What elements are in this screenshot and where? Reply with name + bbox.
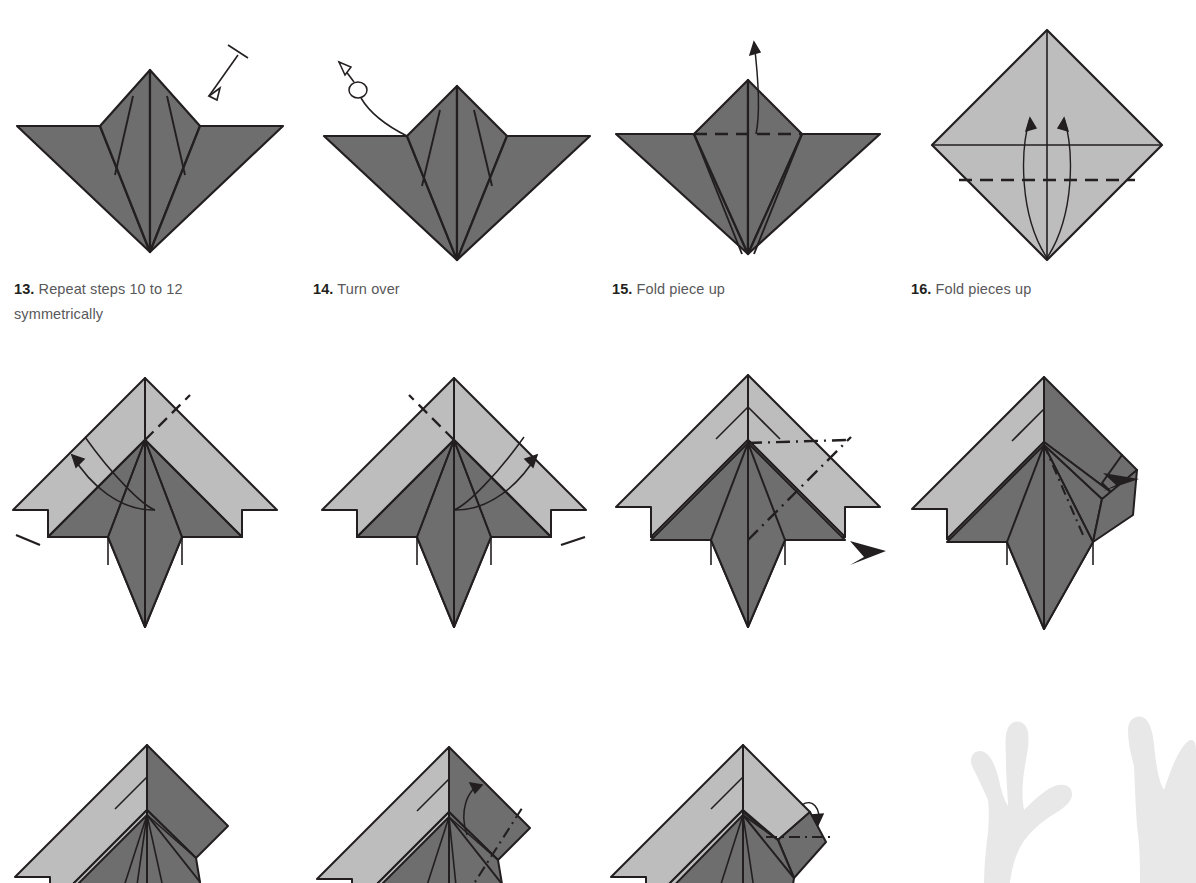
dinosaur-footprint-watermark	[896, 708, 1196, 883]
step-cell-14	[299, 0, 598, 365]
step-number-13: 13.	[14, 281, 34, 297]
step-text-13: Repeat steps 10 to 12 symmetrically	[14, 281, 183, 322]
step-cell-17	[0, 365, 299, 730]
figure-21	[0, 730, 299, 883]
figure-15	[598, 0, 897, 270]
step-cell-18	[299, 365, 598, 730]
figure-16	[897, 0, 1196, 270]
step-cell-22	[299, 730, 598, 883]
instruction-sheet: 13. Repeat steps 10 to 12 symmetrically …	[0, 0, 1196, 883]
step-caption-15: 15. Fold piece up	[612, 277, 872, 302]
footprint-icon	[1128, 716, 1196, 883]
step-text-15: Fold piece up	[637, 281, 725, 297]
step-cell-15	[598, 0, 897, 365]
figure-14	[299, 0, 598, 270]
figure-23	[598, 730, 897, 883]
step-caption-14: 14. Turn over	[313, 277, 573, 302]
figure-18	[299, 365, 598, 635]
step-cell-21	[0, 730, 299, 883]
repeat-arrow-with-cross	[209, 45, 248, 100]
step-number-15: 15.	[612, 281, 632, 297]
figure-19	[598, 365, 897, 635]
turn-over-loop-arrow	[339, 62, 407, 136]
step-row-3	[0, 730, 1196, 883]
step-text-14: Turn over	[337, 281, 399, 297]
figure-20	[897, 365, 1196, 635]
step-cell-19	[598, 365, 897, 730]
step-cell-16	[897, 0, 1196, 365]
figure-17	[0, 365, 299, 635]
step-number-16: 16.	[911, 281, 931, 297]
figure-22	[299, 730, 598, 883]
step-caption-13: 13. Repeat steps 10 to 12 symmetrically	[14, 277, 274, 327]
step-number-14: 14.	[313, 281, 333, 297]
figure-13	[0, 0, 299, 270]
step-row-2: 17. Fold and unfold 18. Fold and unfold …	[0, 365, 1196, 730]
step-cell-23	[598, 730, 897, 883]
push-in-solid-arrowhead	[850, 541, 886, 565]
footprint-icon	[971, 722, 1072, 883]
step-cell-20	[897, 365, 1196, 730]
step-text-16: Fold pieces up	[936, 281, 1032, 297]
step-caption-16: 16. Fold pieces up	[911, 277, 1171, 302]
step-row-1: 13. Repeat steps 10 to 12 symmetrically …	[0, 0, 1196, 365]
watermark-cell	[897, 730, 1196, 883]
